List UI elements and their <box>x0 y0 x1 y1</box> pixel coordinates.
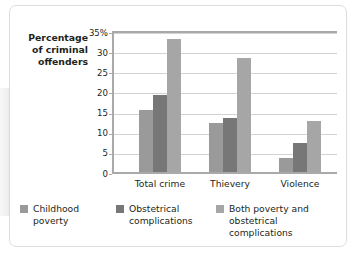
y-axis-tick-mark <box>109 33 112 34</box>
y-axis-tick-label: 25 <box>78 69 108 78</box>
y-axis-tick-mark <box>109 93 112 94</box>
bar-group <box>139 31 181 172</box>
y-axis-tick-label: 20 <box>78 89 108 98</box>
plot-area <box>112 31 337 174</box>
legend-item[interactable]: Obstetrical complications <box>116 203 193 227</box>
legend-item-label: Obstetrical complications <box>129 203 193 227</box>
bar <box>153 95 167 172</box>
bar-group <box>209 31 251 172</box>
legend-swatch-icon <box>20 205 28 213</box>
bar <box>279 158 293 172</box>
bar <box>223 118 237 172</box>
x-axis-line <box>112 172 337 174</box>
y-axis-tick-label: 35% <box>78 29 108 38</box>
legend-item-label: Childhood poverty <box>33 203 79 227</box>
y-axis-tick-mark <box>109 53 112 54</box>
y-axis-tick-mark <box>109 174 112 175</box>
chart-legend: Childhood povertyObstetrical complicatio… <box>20 203 340 237</box>
y-axis-tick-mark <box>109 114 112 115</box>
y-axis-tick-label: 15 <box>78 109 108 118</box>
y-axis-tick-label: 5 <box>78 149 108 158</box>
x-axis-category-label: Violence <box>257 178 343 189</box>
bar-series-container <box>112 31 337 172</box>
y-axis-tick-label: 30 <box>78 49 108 58</box>
y-axis-tick-label: 10 <box>78 129 108 138</box>
legend-swatch-icon <box>216 205 224 213</box>
legend-swatch-icon <box>116 205 124 213</box>
bar <box>293 143 307 172</box>
bar-group <box>279 31 321 172</box>
bar <box>139 110 153 172</box>
bar <box>167 39 181 172</box>
bar <box>209 123 223 172</box>
legend-item[interactable]: Both poverty and obstetrical complicatio… <box>216 203 340 239</box>
legend-item-label: Both poverty and obstetrical complicatio… <box>229 203 340 239</box>
bar <box>237 58 251 172</box>
y-axis-tick-mark <box>109 134 112 135</box>
y-axis-tick-mark <box>109 154 112 155</box>
y-axis-tick-label: 0 <box>78 170 108 179</box>
legend-item[interactable]: Childhood poverty <box>20 203 79 227</box>
chart-page: Percentage of criminal offenders 35%3025… <box>0 0 351 255</box>
y-axis-tick-mark <box>109 73 112 74</box>
bar <box>307 121 321 172</box>
